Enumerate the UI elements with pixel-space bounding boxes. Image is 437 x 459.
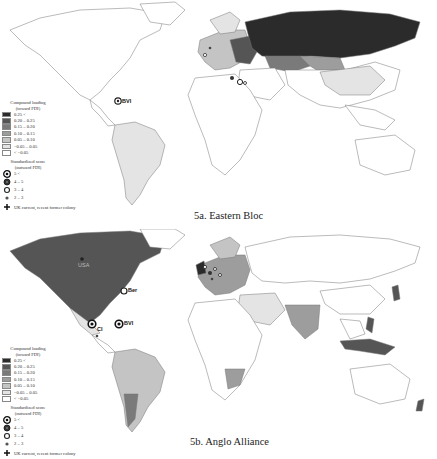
region-indonesia [340, 339, 395, 355]
map-label-ci: CI [97, 326, 103, 332]
legend-symbol-row: 5 < [2, 170, 76, 178]
double-ring-circle-icon [2, 171, 11, 178]
region-china [320, 285, 385, 314]
legend-swatch [2, 364, 11, 370]
region-scandinavia [210, 237, 240, 259]
region-central-america [90, 100, 115, 126]
region-south-america [112, 349, 165, 432]
legend-swatch [2, 377, 11, 383]
legend-symbol-title: Standardized score (outward FDI) [2, 405, 54, 416]
legend-symbol-row: 3 – 4 [2, 432, 76, 440]
legend-swatch [2, 131, 11, 137]
region-europe [198, 255, 250, 295]
map-label-usa: USA [78, 262, 89, 268]
legend-symbol-row: 2 – 3 [2, 440, 76, 448]
legend-swatch [2, 390, 11, 396]
small-dot-icon [2, 195, 11, 202]
open-ring-circle-icon [2, 433, 11, 440]
region-russia [245, 235, 420, 283]
legend-swatch [2, 383, 11, 389]
region-philippines [366, 317, 374, 333]
region-north-america [10, 231, 165, 323]
plus-icon [2, 204, 11, 211]
region-central-america [92, 335, 115, 353]
legend-fill-row: < −0.05 [2, 396, 76, 402]
region-south-asia [285, 305, 320, 339]
legend-fill-title: Compound loading (toward FDI) [2, 100, 54, 111]
legend-swatch [2, 124, 11, 130]
legend-swatch [2, 118, 11, 124]
legend-swatch [2, 112, 11, 118]
legend-fill-row: < −0.05 [2, 150, 76, 156]
legend-symbol-title: Standardized score (outward FDI) [2, 159, 54, 170]
region-australia [355, 135, 415, 175]
map-panel-eastern-bloc: BVI Compound loading (toward FDI) 0.25 <… [0, 0, 437, 229]
legend-symbol-row: 2 – 3 [2, 194, 76, 202]
figure-caption: 5a. Eastern Bloc [194, 210, 263, 221]
legend-symbol-row: 3 – 4 [2, 186, 76, 194]
legend-swatch [2, 370, 11, 376]
region-scandinavia [210, 12, 240, 34]
legend-swatch [2, 144, 11, 150]
region-southeast-asia [345, 105, 395, 130]
region-russia [245, 10, 420, 58]
region-southeast-asia [340, 319, 365, 339]
region-south-america [112, 122, 165, 205]
legend-plus-row: UK current, recent former colony [2, 450, 76, 456]
legend-symbol-row: 5 < [2, 416, 76, 424]
region-southern-africa [225, 369, 245, 389]
double-ring-circle-icon [2, 417, 11, 424]
region-new-zealand [416, 399, 424, 411]
legend-plus-row: UK current, recent former colony [2, 204, 76, 210]
map-label-bermuda: Ber [128, 287, 137, 293]
legend-swatch [2, 150, 11, 156]
map-label-bvi: BVI [124, 320, 133, 326]
legend-fill-title: Compound loading (toward FDI) [2, 346, 54, 357]
region-australia [350, 364, 410, 404]
map-panel-anglo-alliance: Ber BVI CI USA Compound loading (toward … [0, 229, 437, 459]
legend: Compound loading (toward FDI) 0.25 < 0.2… [2, 100, 76, 211]
legend: Compound loading (toward FDI) 0.25 < 0.2… [2, 346, 76, 457]
figure-caption: 5b. Anglo Alliance [190, 436, 269, 447]
region-japan [392, 285, 400, 301]
small-dot-icon [2, 441, 11, 448]
open-ring-circle-icon [2, 187, 11, 194]
plus-icon [2, 450, 11, 457]
legend-symbol-row: 4 – 5 [2, 178, 76, 186]
region-north-america [10, 8, 165, 100]
legend-swatch [2, 358, 11, 364]
legend-symbol-row: 4 – 5 [2, 424, 76, 432]
legend-swatch [2, 137, 11, 143]
filled-ring-circle-icon [2, 179, 11, 186]
legend-swatch [2, 396, 11, 402]
filled-ring-circle-icon [2, 425, 11, 432]
map-label-bvi: BVI [122, 98, 131, 104]
